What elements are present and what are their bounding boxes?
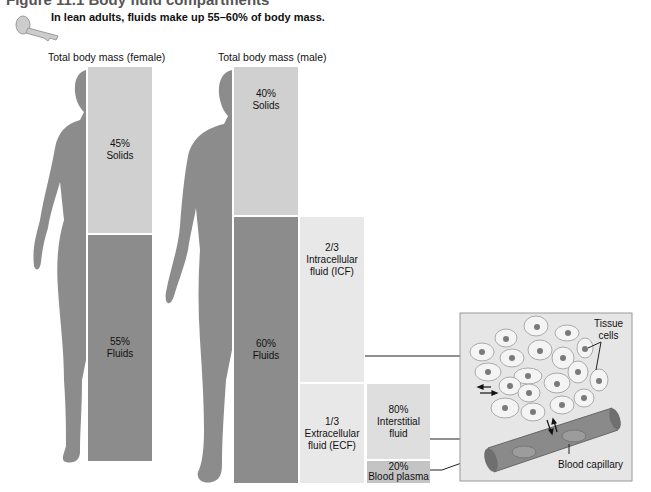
- male-fluids-bar: 60%Fluids: [234, 217, 298, 483]
- interstitial-line1: Interstitial: [377, 416, 420, 428]
- female-solids-value: 45%: [106, 138, 133, 150]
- ecf-line2: fluid (ECF): [304, 440, 359, 452]
- female-fluids-label: Fluids: [107, 348, 134, 360]
- female-solids-bar: 45%Solids: [88, 67, 152, 233]
- ecf-box: 1/3 Extracellular fluid (ECF): [300, 384, 364, 483]
- female-fluids-bar: 55%Fluids: [88, 235, 152, 461]
- female-solids-label: Solids: [106, 150, 133, 162]
- male-solids-bar: 40%Solids: [234, 67, 298, 215]
- plasma-label: Blood plasma: [368, 472, 429, 482]
- male-silhouette: [166, 70, 232, 483]
- interstitial-value: 80%: [377, 404, 420, 416]
- tissue-cells-line2: cells: [594, 330, 623, 342]
- interstitial-box: 80% Interstitial fluid: [367, 384, 430, 459]
- male-solids-value: 40%: [252, 88, 279, 100]
- male-fluids-label: Fluids: [253, 350, 280, 362]
- icf-value: 2/3: [306, 242, 358, 254]
- ecf-value: 1/3: [304, 416, 359, 428]
- interstitial-line2: fluid: [377, 428, 420, 440]
- red-blood-cell: [512, 446, 536, 458]
- red-blood-cell: [562, 430, 586, 442]
- male-fluids-value: 60%: [253, 338, 280, 350]
- female-fluids-value: 55%: [107, 336, 134, 348]
- icf-line2: fluid (ICF): [306, 266, 358, 278]
- male-heading: Total body mass (male): [218, 51, 327, 63]
- tissue-cells-line1: Tissue: [594, 318, 623, 330]
- tissue-cells-label: Tissue cells: [594, 318, 623, 342]
- capillary-label: Blood capillary: [558, 459, 623, 470]
- female-silhouette: [33, 70, 86, 463]
- icf-line1: Intracellular: [306, 254, 358, 266]
- ecf-line1: Extracellular: [304, 428, 359, 440]
- icf-box: 2/3 Intracellular fluid (ICF): [300, 217, 364, 382]
- female-heading: Total body mass (female): [48, 51, 165, 63]
- plasma-box: 20% Blood plasma: [367, 461, 430, 483]
- key-point-text: In lean adults, fluids make up 55–60% of…: [51, 11, 325, 23]
- male-solids-label: Solids: [252, 100, 279, 112]
